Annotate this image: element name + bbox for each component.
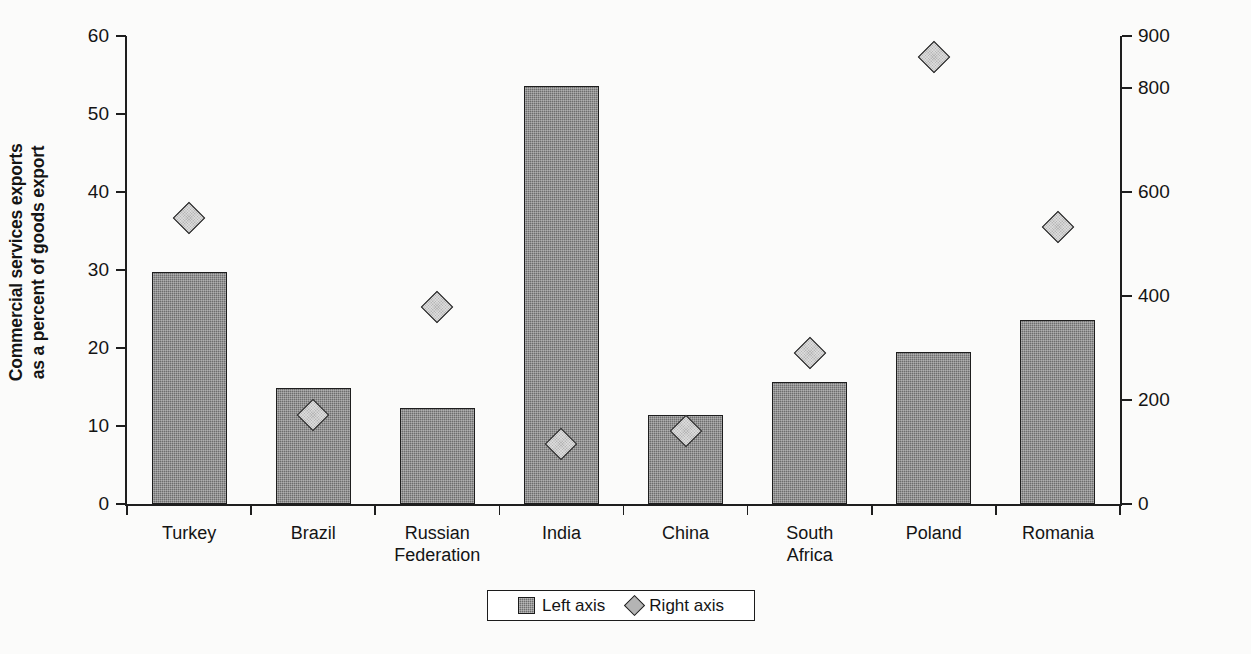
square-marker-icon xyxy=(518,597,535,614)
legend-label-left-axis: Left axis xyxy=(542,596,605,616)
y-axis-left-tick-label: 50 xyxy=(57,104,109,123)
y-axis-right-tick-label: 200 xyxy=(1138,390,1198,409)
legend-label-right-axis: Right axis xyxy=(649,596,724,616)
x-axis-tick-mark xyxy=(871,506,873,515)
y-axis-right-tick-label: 800 xyxy=(1138,78,1198,97)
x-axis-label-south-africa: South Africa xyxy=(748,523,872,567)
y-axis-right-tick-label: 400 xyxy=(1138,286,1198,305)
legend-item-right-axis[interactable]: Right axis xyxy=(627,596,724,616)
y-axis-right-tick-mark xyxy=(1122,191,1132,193)
x-axis-label-india: India xyxy=(499,523,623,545)
x-axis-label-romania: Romania xyxy=(996,523,1120,545)
y-axis-left-tick-label: 0 xyxy=(57,494,109,513)
diamond-marker-turkey[interactable] xyxy=(173,202,206,235)
bar-poland[interactable] xyxy=(896,352,971,504)
y-axis-left-tick-label: 40 xyxy=(57,182,109,201)
x-axis-tick-mark xyxy=(747,506,749,515)
x-axis-tick-mark xyxy=(1119,506,1121,515)
y-axis-right-tick-mark xyxy=(1122,399,1132,401)
x-axis-tick-mark xyxy=(499,506,501,515)
y-axis-right-tick-mark xyxy=(1122,295,1132,297)
bar-south-africa[interactable] xyxy=(772,382,847,504)
diamond-marker-russian-federation[interactable] xyxy=(421,291,454,324)
x-axis-label-china: China xyxy=(624,523,748,545)
x-axis-tick-mark xyxy=(995,506,997,515)
y-axis-left-line xyxy=(125,36,127,504)
x-axis-tick-mark xyxy=(126,506,128,515)
y-axis-left-tick-label: 20 xyxy=(57,338,109,357)
diamond-marker-south-africa[interactable] xyxy=(793,337,826,370)
y-axis-left-tick-label: 30 xyxy=(57,260,109,279)
x-axis-label-brazil: Brazil xyxy=(251,523,375,545)
y-axis-right-line xyxy=(1120,36,1122,504)
diamond-marker-poland[interactable] xyxy=(918,41,951,74)
y-axis-right-tick-label: 600 xyxy=(1138,182,1198,201)
chart-legend: Left axis Right axis xyxy=(487,590,755,621)
legend-item-left-axis[interactable]: Left axis xyxy=(518,596,605,616)
diamond-marker-icon xyxy=(624,595,645,616)
x-axis-label-russian-federation: Russian Federation xyxy=(375,523,499,567)
y-axis-left-tick-label: 10 xyxy=(57,416,109,435)
bar-russian-federation[interactable] xyxy=(400,408,475,504)
y-axis-right-tick-mark xyxy=(1122,87,1132,89)
y-axis-right-tick-mark xyxy=(1122,35,1132,37)
y-axis-left-title: Commercial services exports as a percent… xyxy=(5,97,50,427)
y-axis-left-tick-label: 60 xyxy=(57,26,109,45)
x-axis-tick-mark xyxy=(374,506,376,515)
y-axis-right-tick-mark xyxy=(1122,503,1132,505)
x-axis-tick-mark xyxy=(623,506,625,515)
chart-container: Commercial services exports as a percent… xyxy=(0,0,1251,654)
y-axis-right-tick-label: 900 xyxy=(1138,26,1198,45)
diamond-marker-romania[interactable] xyxy=(1042,211,1075,244)
y-axis-right-tick-label: 0 xyxy=(1138,494,1198,513)
bar-romania[interactable] xyxy=(1020,320,1095,504)
bar-turkey[interactable] xyxy=(152,272,227,504)
x-axis-label-poland: Poland xyxy=(872,523,996,545)
x-axis-label-turkey: Turkey xyxy=(127,523,251,545)
x-axis-tick-mark xyxy=(250,506,252,515)
